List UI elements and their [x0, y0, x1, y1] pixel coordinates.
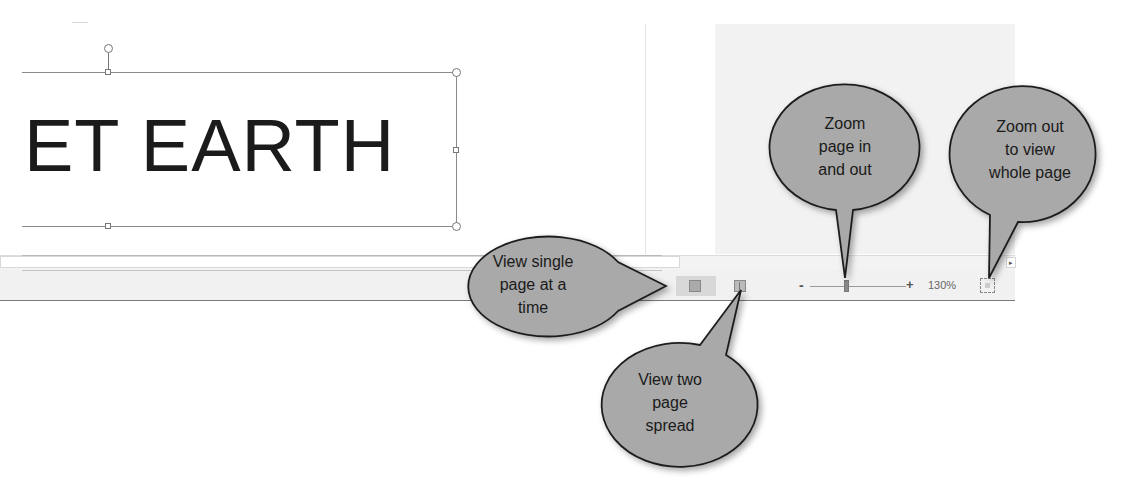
callout-view-single [468, 237, 666, 337]
callout-view-two [602, 290, 758, 467]
callout-layer [0, 0, 1132, 498]
callout-zoom-in-out [770, 84, 920, 278]
callout-zoom-whole [950, 86, 1096, 278]
